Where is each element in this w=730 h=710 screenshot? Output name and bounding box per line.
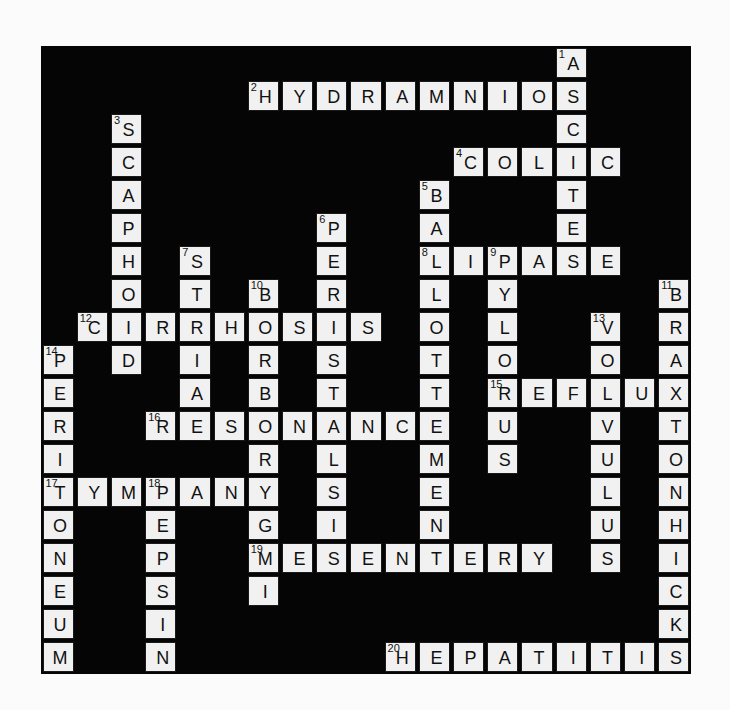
- grid-cell[interactable]: R: [350, 81, 381, 111]
- grid-cell[interactable]: Y: [77, 477, 108, 507]
- grid-cell[interactable]: M: [419, 81, 450, 111]
- grid-cell[interactable]: N: [385, 543, 416, 573]
- grid-cell[interactable]: A: [179, 477, 210, 507]
- grid-cell[interactable]: M: [111, 477, 142, 507]
- grid-cell[interactable]: F: [556, 378, 587, 408]
- grid-cell[interactable]: T: [419, 345, 450, 375]
- grid-cell[interactable]: Y: [248, 477, 279, 507]
- grid-cell[interactable]: I: [179, 345, 210, 375]
- grid-cell[interactable]: L: [316, 444, 347, 474]
- grid-cell[interactable]: 13V: [590, 312, 621, 342]
- grid-cell[interactable]: A: [385, 81, 416, 111]
- grid-cell[interactable]: E: [453, 543, 484, 573]
- grid-cell[interactable]: E: [282, 543, 313, 573]
- grid-cell[interactable]: I: [248, 576, 279, 606]
- grid-cell[interactable]: E: [419, 477, 450, 507]
- grid-cell[interactable]: E: [316, 246, 347, 276]
- grid-cell[interactable]: 12C: [77, 312, 108, 342]
- grid-cell[interactable]: I: [556, 642, 587, 672]
- grid-cell[interactable]: T: [316, 378, 347, 408]
- grid-cell[interactable]: L: [487, 312, 518, 342]
- grid-cell[interactable]: 4C: [453, 147, 484, 177]
- grid-cell[interactable]: L: [521, 147, 552, 177]
- grid-cell[interactable]: C: [385, 411, 416, 441]
- grid-cell[interactable]: O: [487, 147, 518, 177]
- grid-cell[interactable]: I: [145, 609, 176, 639]
- grid-cell[interactable]: C: [556, 114, 587, 144]
- grid-cell[interactable]: L: [419, 279, 450, 309]
- grid-cell[interactable]: V: [590, 411, 621, 441]
- grid-cell[interactable]: N: [453, 81, 484, 111]
- grid-cell[interactable]: S: [590, 543, 621, 573]
- grid-cell[interactable]: 10B: [248, 279, 279, 309]
- grid-cell[interactable]: S: [556, 246, 587, 276]
- grid-cell[interactable]: E: [43, 576, 74, 606]
- grid-cell[interactable]: T: [179, 279, 210, 309]
- grid-cell[interactable]: S: [145, 576, 176, 606]
- grid-cell[interactable]: D: [316, 81, 347, 111]
- grid-cell[interactable]: A: [419, 213, 450, 243]
- grid-cell[interactable]: Y: [521, 543, 552, 573]
- grid-cell[interactable]: E: [43, 378, 74, 408]
- grid-cell[interactable]: E: [179, 411, 210, 441]
- grid-cell[interactable]: H: [658, 510, 689, 540]
- grid-cell[interactable]: I: [556, 147, 587, 177]
- grid-cell[interactable]: A: [179, 378, 210, 408]
- grid-cell[interactable]: O: [419, 312, 450, 342]
- grid-cell[interactable]: S: [316, 477, 347, 507]
- grid-cell[interactable]: R: [145, 312, 176, 342]
- grid-cell[interactable]: E: [556, 213, 587, 243]
- grid-cell[interactable]: S: [556, 81, 587, 111]
- grid-cell[interactable]: A: [316, 411, 347, 441]
- grid-cell[interactable]: I: [111, 312, 142, 342]
- grid-cell[interactable]: U: [590, 444, 621, 474]
- grid-cell[interactable]: N: [214, 477, 245, 507]
- grid-cell[interactable]: S: [316, 543, 347, 573]
- grid-cell[interactable]: R: [248, 345, 279, 375]
- grid-cell[interactable]: S: [350, 312, 381, 342]
- grid-cell[interactable]: O: [248, 411, 279, 441]
- grid-cell[interactable]: I: [624, 642, 655, 672]
- grid-cell[interactable]: X: [658, 378, 689, 408]
- grid-cell[interactable]: A: [658, 345, 689, 375]
- grid-cell[interactable]: 15R: [487, 378, 518, 408]
- grid-cell[interactable]: O: [590, 345, 621, 375]
- grid-cell[interactable]: 8L: [419, 246, 450, 276]
- grid-cell[interactable]: I: [43, 444, 74, 474]
- grid-cell[interactable]: O: [487, 345, 518, 375]
- grid-cell[interactable]: R: [487, 543, 518, 573]
- grid-cell[interactable]: O: [248, 312, 279, 342]
- grid-cell[interactable]: 1A: [556, 48, 587, 78]
- grid-cell[interactable]: L: [590, 477, 621, 507]
- grid-cell[interactable]: B: [248, 378, 279, 408]
- grid-cell[interactable]: C: [111, 147, 142, 177]
- grid-cell[interactable]: N: [282, 411, 313, 441]
- grid-cell[interactable]: 3S: [111, 114, 142, 144]
- grid-cell[interactable]: N: [145, 642, 176, 672]
- grid-cell[interactable]: O: [43, 510, 74, 540]
- grid-cell[interactable]: 5B: [419, 180, 450, 210]
- grid-cell[interactable]: H: [214, 312, 245, 342]
- grid-cell[interactable]: T: [658, 411, 689, 441]
- grid-cell[interactable]: S: [658, 642, 689, 672]
- grid-cell[interactable]: 14P: [43, 345, 74, 375]
- grid-cell[interactable]: 16R: [145, 411, 176, 441]
- grid-cell[interactable]: U: [624, 378, 655, 408]
- grid-cell[interactable]: A: [521, 246, 552, 276]
- grid-cell[interactable]: 18P: [145, 477, 176, 507]
- grid-cell[interactable]: G: [248, 510, 279, 540]
- grid-cell[interactable]: C: [658, 576, 689, 606]
- grid-cell[interactable]: 7S: [179, 246, 210, 276]
- grid-cell[interactable]: I: [658, 543, 689, 573]
- grid-cell[interactable]: 19M: [248, 543, 279, 573]
- grid-cell[interactable]: R: [248, 444, 279, 474]
- grid-cell[interactable]: S: [214, 411, 245, 441]
- grid-cell[interactable]: I: [316, 510, 347, 540]
- grid-cell[interactable]: E: [590, 246, 621, 276]
- grid-cell[interactable]: I: [316, 312, 347, 342]
- grid-cell[interactable]: A: [111, 180, 142, 210]
- grid-cell[interactable]: K: [658, 609, 689, 639]
- grid-cell[interactable]: O: [658, 444, 689, 474]
- grid-cell[interactable]: 17T: [43, 477, 74, 507]
- grid-cell[interactable]: I: [487, 81, 518, 111]
